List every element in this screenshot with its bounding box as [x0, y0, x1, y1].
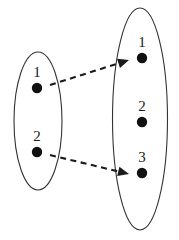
codomain-elements-group: 1 2 3 [137, 34, 147, 178]
set-mapping-diagram: 1 2 1 2 3 [0, 0, 179, 240]
domain-element-dot-1 [32, 83, 42, 93]
codomain-element-label-3: 3 [138, 149, 146, 165]
codomain-element-dot-3 [137, 168, 147, 178]
domain-element-dot-2 [32, 147, 42, 157]
domain-element-label-2: 2 [33, 128, 41, 144]
diagram-canvas: 1 2 1 2 3 [0, 0, 179, 240]
mapping-arrow-1-to-1-head [117, 59, 129, 68]
mapping-arrow-2-to-3 [50, 155, 120, 172]
codomain-element-label-1: 1 [138, 34, 146, 50]
domain-element-label-1: 1 [33, 64, 41, 80]
mapping-arrow-1-to-1 [50, 63, 120, 85]
domain-elements-group: 1 2 [32, 64, 42, 157]
codomain-element-label-2: 2 [138, 98, 146, 114]
mapping-arrow-2-to-3-head [117, 167, 129, 176]
codomain-element-dot-1 [137, 53, 147, 63]
codomain-element-dot-2 [137, 117, 147, 127]
